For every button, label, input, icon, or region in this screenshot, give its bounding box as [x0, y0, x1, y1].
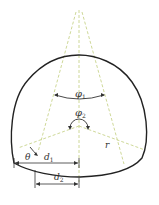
phi2-label: φ2	[75, 107, 86, 119]
phi1-label: φ1	[75, 88, 86, 100]
left-ray	[38, 12, 76, 152]
theta-label: θ	[25, 152, 31, 162]
diagram-canvas: φ1 φ2 r θ d1 d2	[0, 0, 159, 205]
d2-arrow-left-icon	[36, 182, 40, 186]
right-radius-line	[79, 126, 145, 150]
r-label: r	[105, 140, 110, 150]
phi1-arrow-right-icon	[101, 93, 105, 97]
d1-label: d1	[44, 152, 54, 163]
right-ray	[82, 12, 124, 164]
phi1-arrow-left-icon	[54, 93, 58, 97]
d2-label: d2	[54, 172, 64, 183]
tunnel-cross-section-figure: φ1 φ2 r θ d1 d2	[0, 0, 159, 205]
d1-arrow-right-icon	[74, 161, 78, 165]
d2-arrow-right-icon	[74, 182, 78, 186]
